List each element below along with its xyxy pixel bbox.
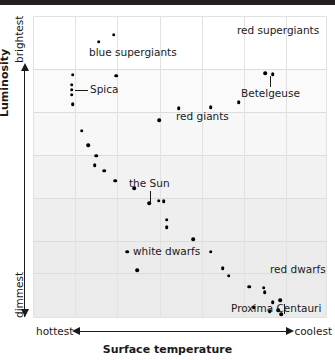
gridline-vertical [202,16,203,318]
y-axis-arrow-up-icon [21,63,29,71]
star-point [221,266,225,270]
gridline-horizontal [33,69,327,70]
star-point [227,274,231,278]
spica-leader-line [75,90,88,91]
star-point [70,93,74,97]
star-point [263,291,267,295]
star-point [247,285,251,289]
star-point [162,200,166,204]
label-proxima-centauri: Proxima Centauri [231,303,321,314]
plot-area: blue supergiants red supergiants Spica B… [33,16,327,318]
hr-diagram-figure: blue supergiants red supergiants Spica B… [0,5,335,360]
star-point [165,218,169,222]
x-axis-arrow-left-icon [72,327,80,335]
star-point [191,238,195,242]
plot-band [33,198,327,241]
star-point [70,83,74,87]
star-point [114,74,118,78]
star-point [263,72,267,76]
star-point [71,73,75,77]
x-axis-right-label: coolest [294,325,332,337]
star-point [271,72,275,76]
gridline-horizontal [33,241,327,242]
x-axis-title: Surface temperature [0,343,335,356]
star-point [158,118,162,122]
star-point [93,164,97,168]
star-point [86,143,90,147]
x-axis-left-label: hottest [36,325,73,337]
y-axis-title: Luminosity [0,49,11,117]
star-point [136,268,140,272]
plot-band [33,155,327,198]
gridline-vertical [75,16,76,318]
star-point [94,154,98,158]
label-red-dwarfs: red dwarfs [270,264,326,275]
star-point [71,102,75,106]
y-axis-top-label: brightest [13,16,25,63]
star-point [209,250,213,254]
star-point [114,179,118,183]
star-point [209,105,213,109]
star-point [237,100,241,104]
star-point [97,40,101,44]
label-white-dwarfs: white dwarfs [133,246,200,257]
star-point [157,199,161,203]
star-point [262,286,266,290]
star-point [165,226,169,230]
star-point [102,169,106,173]
x-axis-arrow-right-icon [286,327,294,335]
y-axis-arrow-line [24,70,25,317]
label-red-giants: red giants [176,111,229,122]
label-red-supergiants: red supergiants [237,25,319,36]
y-axis-arrow-down-icon [21,309,29,317]
betelgeuse-leader-line [270,76,271,87]
star-point [125,250,129,254]
x-axis-arrow-line [80,331,287,332]
gridline-horizontal [33,155,327,156]
star-point [80,129,84,133]
gridline-vertical [117,16,118,318]
label-the-sun: the Sun [129,178,170,189]
gridline-vertical [160,16,161,318]
gridline-vertical [244,16,245,318]
star-point [112,33,116,37]
label-blue-supergiants: blue supergiants [89,47,177,58]
label-spica: Spica [90,84,118,95]
gridline-horizontal [33,198,327,199]
star-point [70,88,74,92]
label-betelgeuse: Betelgeuse [241,88,300,99]
the-sun-leader-line [150,191,151,202]
